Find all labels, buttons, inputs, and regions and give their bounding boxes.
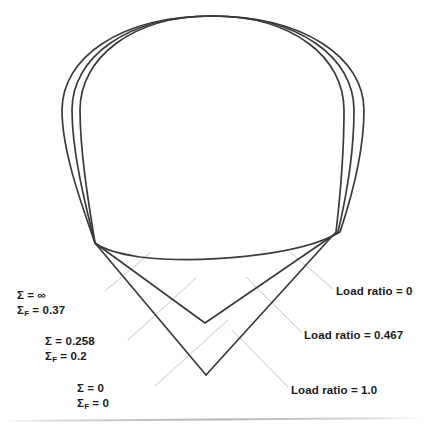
sigma-f-value: 0.2 — [70, 350, 86, 362]
annotation-sigma-0258-line1: Σ = 0.258 — [45, 334, 95, 349]
leader-sigma-infinite — [105, 253, 150, 291]
annotation-load-ratio-0: Load ratio = 0 — [336, 284, 413, 299]
sigma-f-subscript: F — [52, 355, 57, 364]
sigma-value: 0.258 — [65, 335, 94, 347]
sigma-symbol: Σ = — [45, 335, 65, 347]
leader-load-ratio-0467 — [246, 277, 301, 332]
equals-sign: = — [57, 350, 70, 362]
annotation-sigma-zero: Σ = 0 ΣF = 0 — [77, 381, 109, 410]
annotation-load-ratio-0-text: Load ratio = 0 — [336, 284, 413, 299]
sigma-symbol: Σ = — [17, 289, 37, 301]
annotation-sigma-infinite: Σ = ∞ ΣF = 0.37 — [17, 288, 65, 317]
equals-sign: = — [89, 397, 102, 409]
sigma-f-symbol: Σ — [45, 350, 52, 362]
leader-sigma-zero — [155, 320, 228, 386]
annotation-sigma-0258-line2: ΣF = 0.2 — [45, 349, 95, 364]
figure-canvas: Σ = ∞ ΣF = 0.37 Σ = 0.258 ΣF = 0.2 Σ = 0… — [0, 0, 424, 429]
annotation-load-ratio-10-text: Load ratio = 1.0 — [291, 383, 377, 398]
annotation-load-ratio-0467-text: Load ratio = 0.467 — [304, 328, 403, 343]
sigma-value: ∞ — [37, 289, 45, 301]
diagram-svg — [0, 0, 424, 429]
annotation-load-ratio-0467: Load ratio = 0.467 — [304, 328, 403, 343]
annotation-sigma-zero-line1: Σ = 0 — [77, 381, 109, 396]
annotation-sigma-0258: Σ = 0.258 ΣF = 0.2 — [45, 334, 95, 363]
sigma-f-subscript: F — [84, 402, 89, 411]
sigma-f-symbol: Σ — [17, 304, 24, 316]
inner-curve-load-ratio-10 — [80, 16, 344, 375]
annotation-sigma-infinite-line2: ΣF = 0.37 — [17, 303, 65, 318]
sigma-symbol: Σ = — [77, 382, 97, 394]
sigma-value: 0 — [97, 382, 104, 394]
sigma-f-value: 0.37 — [42, 304, 65, 316]
annotation-sigma-infinite-line1: Σ = ∞ — [17, 288, 65, 303]
sigma-f-value: 0 — [102, 397, 109, 409]
equals-sign: = — [29, 304, 42, 316]
bottom-rule — [4, 418, 420, 421]
curve-group — [62, 16, 364, 375]
annotation-sigma-zero-line2: ΣF = 0 — [77, 396, 109, 411]
annotation-load-ratio-10: Load ratio = 1.0 — [291, 383, 377, 398]
sigma-f-subscript: F — [24, 309, 29, 318]
leader-load-ratio-0 — [290, 252, 333, 289]
middle-curve-load-ratio-0467 — [72, 16, 354, 323]
leader-load-ratio-10 — [232, 330, 288, 387]
sigma-f-symbol: Σ — [77, 397, 84, 409]
